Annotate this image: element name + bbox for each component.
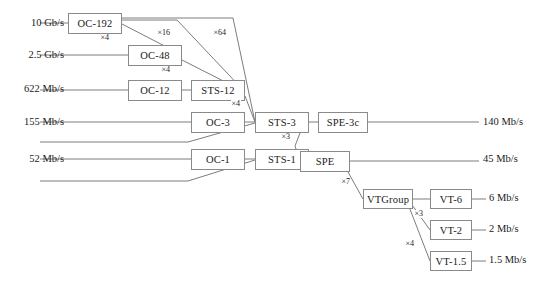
node-spe[interactable]: SPE (300, 151, 350, 172)
node-sts3[interactable]: STS-3 (255, 112, 309, 133)
node-oc48[interactable]: OC-48 (128, 45, 182, 66)
multiplier-m-oc192-sts12: ×16 (157, 29, 171, 37)
node-vt6[interactable]: VT-6 (430, 189, 472, 209)
multiplier-m-vtg-vt15: ×4 (405, 240, 415, 248)
node-oc1[interactable]: OC-1 (191, 149, 245, 170)
node-oc12[interactable]: OC-12 (128, 80, 182, 101)
rate-label-r-52m: 52 Mb/s (8, 153, 64, 164)
rate-label-r-45m: 45 Mb/s (483, 153, 518, 164)
node-vt15[interactable]: VT-1.5 (430, 251, 472, 271)
rate-label-r-140m: 140 Mb/s (483, 116, 523, 127)
multiplier-m-spe-vtgroup: ×7 (341, 178, 351, 186)
rate-label-r-2m: 2 Mb/s (489, 223, 518, 234)
node-vtgroup[interactable]: VTGroup (363, 189, 413, 209)
multiplier-m-oc192-oc48: ×4 (100, 34, 110, 42)
node-oc3[interactable]: OC-3 (191, 112, 245, 133)
multiplier-m-oc192-sts3: ×64 (213, 29, 227, 37)
node-sts12[interactable]: STS-12 (191, 80, 245, 101)
sonet-hierarchy-diagram: OC-192OC-48OC-12STS-12OC-3STS-3SPE-3cOC-… (0, 0, 542, 285)
node-vt2[interactable]: VT-2 (430, 220, 472, 240)
multiplier-m-sts3-spe: ×3 (281, 133, 291, 141)
multiplier-m-oc48-sts12: ×4 (161, 66, 171, 74)
rate-label-r-6m: 6 Mb/s (489, 192, 518, 203)
rate-label-r-622m: 622 Mb/s (2, 83, 64, 94)
rate-label-r-155m: 155 Mb/s (2, 116, 64, 127)
multiplier-m-vtg-vt2: ×3 (414, 210, 424, 218)
connection-lines-layer (0, 0, 542, 285)
node-spe3c[interactable]: SPE-3c (318, 112, 368, 133)
node-oc192[interactable]: OC-192 (68, 13, 122, 34)
rate-label-r-25g: 2.5 Gb/s (8, 49, 64, 60)
rate-label-r-15m: 1.5 Mb/s (489, 254, 526, 265)
multiplier-m-sts12-sts3: ×4 (231, 100, 241, 108)
rate-label-r-10g: 10 Gb/s (8, 17, 64, 28)
